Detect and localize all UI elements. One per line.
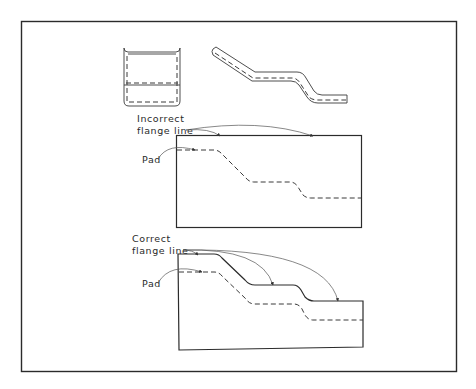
correct-leader-3: [183, 250, 338, 301]
incorrect-callout-line2: flange line: [137, 125, 193, 136]
correct-leader-2: [183, 250, 273, 285]
correct-callout-line1: Correct: [132, 233, 171, 244]
diagram-canvas: Incorrect flange line Pad Correct flange…: [0, 0, 476, 389]
incorrect-callout-line1: Incorrect: [137, 113, 185, 124]
correct-pad-label: Pad: [142, 278, 161, 289]
correct-pad-leader: [158, 269, 202, 283]
side-view-bent-strip: [212, 47, 347, 103]
correct-callout-line2: flange line: [132, 245, 188, 256]
incorrect-pad-label: Pad: [142, 154, 161, 165]
correct-blank-outline: [178, 254, 363, 350]
end-view-cup: [124, 48, 180, 106]
correct-flange-panel: Correct flange line Pad: [132, 233, 363, 350]
incorrect-flange-panel: Incorrect flange line Pad: [137, 113, 362, 228]
figure-frame: [22, 22, 457, 372]
incorrect-pad-line: [177, 150, 361, 198]
